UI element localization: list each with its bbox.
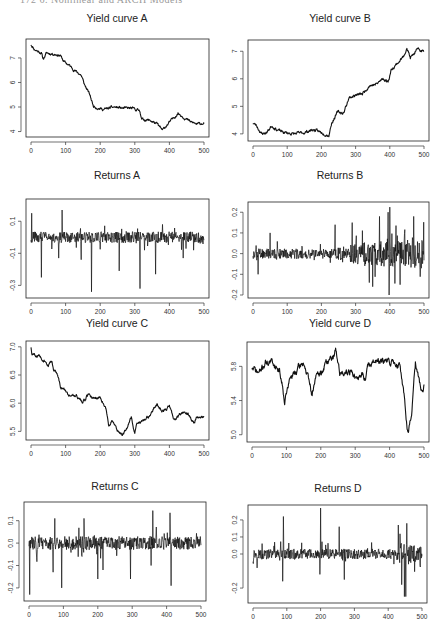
series-line: [253, 508, 422, 597]
x-tick-label: 300: [349, 613, 360, 620]
x-tick-label: 100: [281, 613, 292, 620]
chart-returnsD: 01002003004005000.20.10.0-0.2: [0, 0, 443, 625]
y-tick-label: 0.1: [231, 532, 238, 541]
x-tick-label: 200: [315, 613, 326, 620]
x-tick-label: 500: [417, 613, 428, 620]
x-tick-label: 400: [383, 613, 394, 620]
y-tick-label: -0.2: [231, 582, 238, 594]
y-tick-label: 0.2: [231, 515, 238, 524]
y-tick-label: 0.0: [231, 549, 238, 558]
x-tick-label: 0: [251, 613, 255, 620]
